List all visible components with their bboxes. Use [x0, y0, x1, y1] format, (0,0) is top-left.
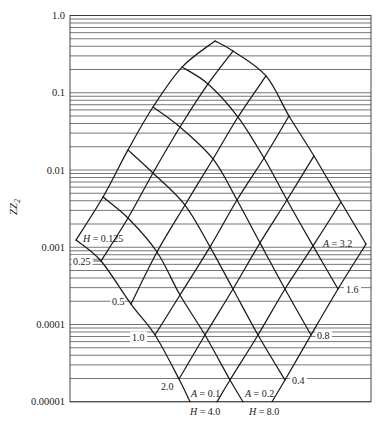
annotation-a-0-1: A = 0.1: [190, 388, 220, 399]
annotation-value: = 8.0: [256, 406, 279, 417]
annotation-value: = 4.0: [197, 406, 220, 417]
annotation-value: 0.8: [317, 330, 330, 341]
y-tick-label: 0.0001: [36, 319, 65, 330]
y-tick-label: 0.00001: [31, 396, 65, 407]
annotation-value: 1.6: [346, 284, 359, 295]
annotation-h-2-0: 2.0: [161, 381, 174, 392]
annotation-a-0-4: 0.4: [292, 375, 305, 386]
y-axis-label-subscript: 2: [13, 199, 22, 203]
y-tick-label: 1.0: [52, 10, 65, 21]
annotation-a-1-6: 1.6: [346, 284, 359, 295]
annotation-value: = 3.2: [329, 238, 352, 249]
annotation-value: 2.0: [161, 381, 174, 392]
annotation-value: 0.5: [112, 296, 125, 307]
annotation-value: = 0.2: [251, 388, 274, 399]
y-axis-label-main: ZZ: [7, 202, 19, 215]
annotation-h-0-25: 0.25: [73, 256, 91, 267]
annotation-h-8-0: H = 8.0: [248, 406, 279, 417]
annotation-value: 0.4: [292, 375, 305, 386]
annotation-value: 0.25: [73, 256, 91, 267]
y-tick-label: 0.1: [52, 87, 65, 98]
annotation-h-0-125: H = 0.125: [82, 233, 123, 244]
annotation-value: = 0.1: [197, 388, 220, 399]
annotation-value: = 0.125: [90, 233, 123, 244]
annotation-h-1-0: 1.0: [132, 332, 145, 343]
annotation-h-0-5: 0.5: [112, 296, 125, 307]
annotation-a-3-2: A = 3.2: [322, 238, 352, 249]
y-tick-label: 0.001: [41, 242, 65, 253]
annotation-a-0-8: 0.8: [317, 330, 330, 341]
annotation-a-0-2: A = 0.2: [244, 388, 274, 399]
annotation-h-4-0: H = 4.0: [189, 406, 220, 417]
y-tick-label: 0.01: [47, 165, 65, 176]
annotation-value: 1.0: [132, 332, 145, 343]
nomogram-chart: 1.00.10.010.0010.00010.00001 ZZ2 H = 0.1…: [0, 0, 382, 428]
